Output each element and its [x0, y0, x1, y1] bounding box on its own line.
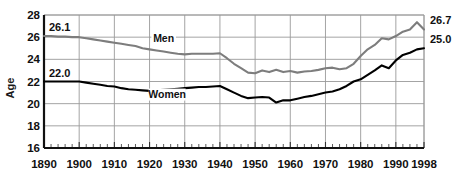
series-label-women: Women [148, 88, 186, 100]
y-axis-tick-label: 26 [27, 31, 40, 43]
annotation-women-start-value: 22.0 [49, 67, 70, 79]
annotation-women-end-value: 25.0 [430, 33, 451, 45]
y-axis-tick-label: 24 [27, 53, 40, 65]
x-axis-tick-label: 1980 [348, 158, 374, 170]
annotation-men-end-value: 26.7 [430, 14, 451, 26]
x-axis-tick-label: 1940 [207, 158, 233, 170]
x-axis-tick-label: 1960 [277, 158, 303, 170]
y-axis-title: Age [4, 78, 16, 99]
y-axis-tick-label: 18 [27, 120, 40, 132]
x-axis-tick-label: 1998 [411, 158, 437, 170]
x-axis-tick-label: 1900 [66, 158, 92, 170]
x-axis-tick-label: 1930 [172, 158, 198, 170]
y-axis-tick-label: 22 [27, 76, 40, 88]
x-axis-tick-label: 1920 [137, 158, 163, 170]
series-label-men: Men [153, 32, 174, 44]
x-axis-tick-label: 1950 [242, 158, 268, 170]
x-axis-tick-label: 1910 [102, 158, 128, 170]
age-at-first-marriage-chart: 16182022242628 1890190019101920193019401… [0, 0, 456, 184]
chart-canvas: 16182022242628 1890190019101920193019401… [0, 0, 456, 184]
y-axis-tick-label: 28 [27, 9, 40, 21]
x-axis-tick-label: 1970 [313, 158, 339, 170]
x-axis-tick-label: 1990 [383, 158, 409, 170]
y-axis-tick-label: 16 [27, 142, 40, 154]
y-axis-tick-label: 20 [27, 98, 40, 110]
annotation-men-start-value: 26.1 [49, 21, 70, 33]
x-axis-tick-label: 1890 [31, 158, 57, 170]
